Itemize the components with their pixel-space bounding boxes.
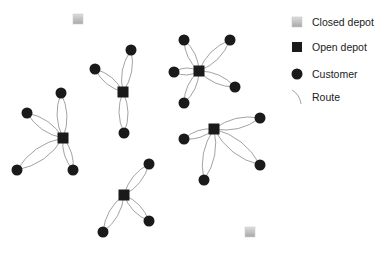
routes-layer <box>17 40 260 232</box>
customer-node <box>98 227 109 238</box>
route-line <box>123 50 132 92</box>
customer-node <box>255 113 266 124</box>
customer-node <box>12 165 23 176</box>
customer-node <box>144 159 155 170</box>
open-depot-node <box>194 66 205 77</box>
route-line <box>122 50 131 92</box>
open-depot-node <box>119 190 130 201</box>
depot-routing-diagram <box>0 0 375 254</box>
route-line <box>103 195 124 232</box>
open-depot-node <box>209 124 220 135</box>
route-line <box>204 129 216 180</box>
customer-node <box>119 128 130 139</box>
route-line <box>17 138 63 170</box>
closed-depot-icon <box>290 15 304 29</box>
customer-node <box>169 67 180 78</box>
legend-label: Route <box>312 91 340 103</box>
legend-label: Closed depot <box>312 16 374 28</box>
customer-node <box>56 88 67 99</box>
open-depot-node <box>58 133 69 144</box>
route-icon <box>290 89 304 105</box>
route-line <box>119 92 124 133</box>
customer-node <box>179 134 190 145</box>
customer-node <box>22 108 33 119</box>
customer-node <box>144 216 155 227</box>
customer-node <box>230 82 241 93</box>
route-line <box>103 195 124 232</box>
route-line <box>202 129 214 180</box>
customer-node <box>179 35 190 46</box>
customer-icon <box>290 67 304 81</box>
open-depot-node <box>118 87 129 98</box>
route-line <box>17 138 63 170</box>
customer-node <box>255 160 266 171</box>
customer-node <box>68 165 79 176</box>
route-line <box>214 129 260 165</box>
route-line <box>214 129 260 165</box>
closed-depot-node <box>245 227 255 237</box>
customer-node <box>199 175 210 186</box>
open-depot-icon <box>290 40 304 54</box>
customer-node <box>225 35 236 46</box>
route-line <box>123 92 128 133</box>
closed-depot-node <box>73 14 83 24</box>
legend-label: Customer <box>312 68 358 80</box>
route-line <box>61 93 67 138</box>
legend-label: Open depot <box>312 41 367 53</box>
customer-node <box>126 45 137 56</box>
customer-node <box>90 64 101 75</box>
customer-node <box>179 98 190 109</box>
